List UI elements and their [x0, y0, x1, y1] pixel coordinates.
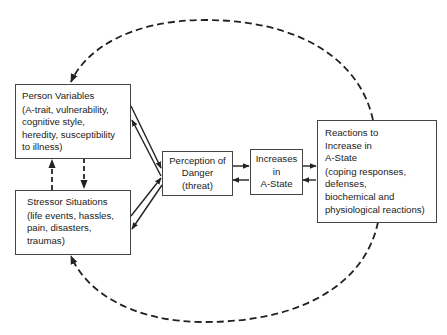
arrow-perception-to-person [132, 120, 161, 176]
node-title: Increase in [325, 140, 431, 153]
node-line: Perception of [169, 155, 226, 168]
node-detail: biochemical and [325, 191, 431, 204]
node-detail: to illness) [22, 141, 124, 154]
node-person-variables: Person Variables (A-trait, vulnerability… [15, 84, 131, 159]
node-line: A-State [261, 178, 293, 191]
node-perception-of-danger: Perception of Danger (threat) [162, 151, 233, 196]
node-line: (threat) [182, 180, 213, 193]
arrow-perception-to-stressor [132, 185, 162, 229]
node-title: Person Variables [22, 90, 124, 103]
arrow-stressor-to-perception [131, 178, 161, 216]
node-detail: (life events, hassles, [27, 210, 124, 223]
node-line: in [273, 166, 280, 179]
node-detail: physiological reactions) [325, 204, 431, 217]
node-detail: pain, disasters, [27, 222, 124, 235]
node-title: Stressor Situations [27, 196, 124, 209]
node-title: A-State [325, 152, 431, 165]
node-detail: (A-trait, vulnerability, [22, 104, 124, 117]
node-detail: cognitive style, [22, 116, 124, 129]
node-detail: (coping responses, [325, 166, 431, 179]
node-detail: traumas) [27, 235, 124, 248]
arrow-person-to-perception [131, 106, 161, 168]
node-increases-in-a-state: Increases in A-State [250, 149, 303, 195]
node-line: Danger [182, 167, 213, 180]
node-detail: defenses, [325, 178, 431, 191]
node-detail: heredity, susceptibility [22, 129, 124, 142]
node-reactions-to-increase: Reactions to Increase in A-State (coping… [317, 120, 437, 223]
node-stressor-situations: Stressor Situations (life events, hassle… [15, 190, 131, 255]
node-line: Increases [256, 153, 298, 166]
node-title: Reactions to [325, 127, 431, 140]
